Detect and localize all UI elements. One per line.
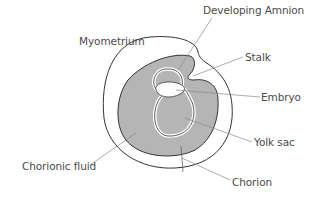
- label-developing-amnion: Developing Amnion: [203, 5, 304, 16]
- leader-chorion: [182, 158, 230, 180]
- early-pregnancy-diagram: [0, 0, 320, 207]
- label-embryo: Embryo: [261, 92, 301, 103]
- label-chorion: Chorion: [232, 177, 272, 188]
- label-myometrium: Myometrium: [79, 36, 145, 47]
- label-stalk: Stalk: [245, 52, 271, 63]
- label-chorionic-fluid: Chorionic fluid: [22, 161, 96, 172]
- label-yolk-sac: Yolk sac: [254, 137, 295, 148]
